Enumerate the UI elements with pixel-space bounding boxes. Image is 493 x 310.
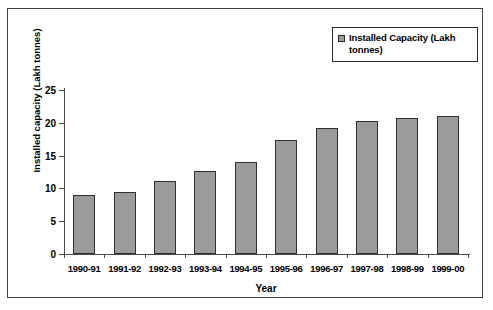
- y-axis-tick-label: 15: [36, 150, 56, 161]
- chart-legend[interactable]: Installed Capacity (Lakh tonnes): [332, 27, 478, 62]
- x-axis-tick: [104, 254, 105, 258]
- bar[interactable]: [194, 171, 216, 254]
- x-axis-tick-label: 1997-98: [345, 263, 389, 274]
- bar[interactable]: [316, 128, 338, 254]
- x-axis-tick: [306, 254, 307, 258]
- x-axis-tick: [64, 254, 65, 258]
- x-axis-tick-label: 1993-94: [183, 263, 227, 274]
- x-axis-tick-label: 1996-97: [305, 263, 349, 274]
- x-axis-title: Year: [64, 283, 468, 294]
- bar[interactable]: [235, 162, 257, 254]
- bar[interactable]: [356, 121, 378, 254]
- bar[interactable]: [437, 116, 459, 254]
- x-axis-tick: [468, 254, 469, 258]
- x-axis-tick-label: 1990-91: [62, 263, 106, 274]
- x-axis-tick: [266, 254, 267, 258]
- x-axis-tick-label: 1994-95: [224, 263, 268, 274]
- bar[interactable]: [154, 181, 176, 254]
- y-axis-tick-label: 5: [36, 216, 56, 227]
- y-axis-tick-label: 25: [36, 85, 56, 96]
- chart-frame: Installed Capacity (Lakh tonnes) Install…: [7, 8, 483, 298]
- x-axis-tick: [347, 254, 348, 258]
- plot-area: [64, 90, 468, 254]
- x-axis-tick: [185, 254, 186, 258]
- bar[interactable]: [396, 118, 418, 254]
- x-axis-tick: [428, 254, 429, 258]
- x-axis-tick: [145, 254, 146, 258]
- x-axis-line: [64, 254, 470, 255]
- x-axis-tick: [226, 254, 227, 258]
- x-axis-tick-label: 1998-99: [385, 263, 429, 274]
- x-axis-tick-label: 1992-93: [143, 263, 187, 274]
- bar[interactable]: [73, 195, 95, 254]
- legend-square-marker-icon: [338, 35, 345, 42]
- x-axis-tick-label: 1999-00: [426, 263, 470, 274]
- y-axis-tick-label: 10: [36, 183, 56, 194]
- y-axis-tick-label: 20: [36, 117, 56, 128]
- bar[interactable]: [275, 140, 297, 254]
- x-axis-tick-label: 1991-92: [103, 263, 147, 274]
- bar[interactable]: [114, 192, 136, 254]
- x-axis-tick: [387, 254, 388, 258]
- x-axis-tick-label: 1995-96: [264, 263, 308, 274]
- y-axis-tick-label: 0: [36, 249, 56, 260]
- legend-series-label: Installed Capacity (Lakh tonnes): [349, 32, 473, 56]
- x-axis-tick-labels: 1990-911991-921992-931993-941994-951995-…: [64, 263, 468, 277]
- y-axis-title: Installed capacity (Lakh tonnes): [31, 11, 42, 191]
